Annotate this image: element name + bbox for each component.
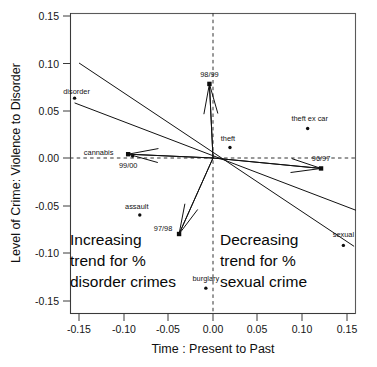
x-tick-label-2: -0.05 <box>156 323 180 335</box>
year-point-label: 97/98 <box>154 224 173 233</box>
increasing-disorder-annotation: Increasing trend for % disorder crimes <box>70 231 176 290</box>
y-tick-label-4: -0.05 <box>35 200 59 212</box>
y-tick-label-5: -0.10 <box>35 247 59 259</box>
crime-point-marker <box>228 146 231 149</box>
year-vector-arrowhead <box>291 168 322 172</box>
year-point-label: 98/99 <box>200 70 219 79</box>
chart-container: 0.15 0.10 0.05 0.00 -0.05 -0.10 -0.15 -0… <box>0 0 377 367</box>
x-tick-label-0: -0.15 <box>67 323 91 335</box>
year-points-group: 98/9999/0097/9896/97 <box>119 70 330 236</box>
year-vector-stroke <box>179 158 213 234</box>
crime-point-label: theft ex car <box>291 114 328 123</box>
crime-point-marker <box>204 286 207 289</box>
y-tick-label-0: 0.15 <box>39 10 60 22</box>
x-tick-label-6: 0.15 <box>337 323 358 335</box>
x-axis-title: Time : Present to Past <box>151 342 275 356</box>
year-point-marker <box>319 166 323 170</box>
crime-point-marker <box>342 244 345 247</box>
annotation-left-line-3: disorder crimes <box>70 273 176 290</box>
crime-point-marker <box>131 154 134 157</box>
year-point-label: 96/97 <box>312 154 331 163</box>
annotation-right-line-1: Decreasing <box>220 231 298 248</box>
decreasing-sexual-annotation: Decreasing trend for % sexual crime <box>220 231 307 290</box>
annotation-right-line-3: sexual crime <box>220 273 307 290</box>
crime-point-label: disorder <box>63 87 90 96</box>
x-tick-label-3: 0.00 <box>203 323 224 335</box>
year-point-marker <box>126 152 130 156</box>
y-tick-label-3: 0.00 <box>39 152 60 164</box>
biplot-svg: 0.15 0.10 0.05 0.00 -0.05 -0.10 -0.15 -0… <box>0 0 377 367</box>
y-axis-title: Level of Crime: Violence to Disorder <box>9 63 23 263</box>
year-vectors-group <box>128 84 321 234</box>
x-tick-label-5: 0.10 <box>292 323 313 335</box>
y-tick-label-2: 0.05 <box>39 105 60 117</box>
year-point-label: 99/00 <box>119 161 138 170</box>
crime-point-marker <box>138 213 141 216</box>
x-axis-ticks <box>79 314 347 322</box>
crime-point-label: cannabis <box>84 148 114 157</box>
crime-point-label: assault <box>125 202 148 211</box>
crime-point-marker <box>306 127 309 130</box>
crime-point-label: sexual <box>333 230 355 239</box>
year-point-marker <box>177 232 181 236</box>
x-tick-label-1: -0.10 <box>112 323 136 335</box>
y-tick-label-6: -0.15 <box>35 295 59 307</box>
annotation-left-line-2: trend for % <box>70 252 146 269</box>
year-vector-arrowhead <box>204 84 210 114</box>
y-tick-label-1: 0.10 <box>39 58 60 70</box>
crime-point-marker <box>73 96 76 99</box>
crime-point-label: theft <box>221 134 235 143</box>
x-tick-label-4: 0.05 <box>247 323 268 335</box>
year-point-marker <box>207 82 211 86</box>
annotation-right-line-2: trend for % <box>220 252 296 269</box>
year-vector-arrowhead <box>128 149 158 155</box>
crime-point-label: burglary <box>193 274 220 283</box>
annotation-left-line-1: Increasing <box>70 231 142 248</box>
